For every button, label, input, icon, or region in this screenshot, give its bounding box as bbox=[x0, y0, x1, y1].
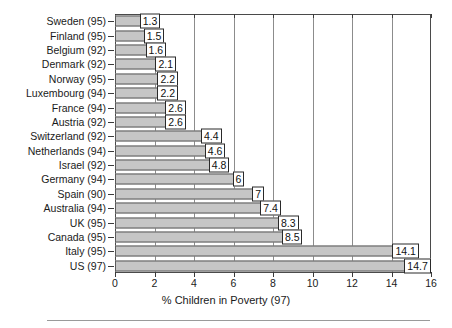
bar-row: 2.6 bbox=[115, 100, 431, 114]
bar bbox=[115, 116, 166, 127]
category-tick bbox=[108, 50, 114, 51]
bar bbox=[115, 73, 158, 84]
category-tick bbox=[108, 136, 114, 137]
bar-row: 8.3 bbox=[115, 215, 431, 229]
footer-divider-rule bbox=[47, 320, 430, 321]
bar-value-label: 14.7 bbox=[404, 258, 430, 273]
category-axis-labels: Sweden (95)Finland (95)Belgium (92)Denma… bbox=[0, 14, 106, 273]
category-tick bbox=[108, 165, 114, 166]
bar bbox=[115, 16, 141, 27]
tick-label-6: 6 bbox=[231, 277, 237, 289]
category-tick bbox=[108, 208, 114, 209]
category-tick bbox=[108, 64, 114, 65]
category-label: Canada (95) bbox=[0, 231, 106, 243]
bar bbox=[115, 232, 283, 243]
bar-series: 1.31.51.62.12.22.22.62.64.44.64.8677.48.… bbox=[115, 14, 431, 273]
category-tick bbox=[108, 179, 114, 180]
bar-row: 8.5 bbox=[115, 230, 431, 244]
bar-value-label: 1.6 bbox=[146, 42, 167, 57]
bar-row: 1.5 bbox=[115, 28, 431, 42]
category-label: US (97) bbox=[0, 260, 106, 272]
category-tick bbox=[108, 79, 114, 80]
category-tick bbox=[108, 223, 114, 224]
bar-row: 7 bbox=[115, 187, 431, 201]
bar-row: 2.1 bbox=[115, 57, 431, 71]
bar bbox=[115, 131, 202, 142]
category-label: Norway (95) bbox=[0, 73, 106, 85]
category-tick bbox=[108, 237, 114, 238]
bar bbox=[115, 246, 393, 257]
bar bbox=[115, 145, 206, 156]
bar-value-label: 2.6 bbox=[165, 114, 186, 129]
category-label: Switzerland (92) bbox=[0, 130, 106, 142]
bar-row: 4.8 bbox=[115, 158, 431, 172]
bar-value-label: 4.4 bbox=[201, 129, 222, 144]
category-label: Luxembourg (94) bbox=[0, 87, 106, 99]
tick-label-14: 14 bbox=[386, 277, 398, 289]
tick-label-12: 12 bbox=[346, 277, 358, 289]
bar-row: 14.1 bbox=[115, 244, 431, 258]
category-label: Italy (95) bbox=[0, 245, 106, 257]
bar-value-label: 1.3 bbox=[140, 14, 161, 29]
tick-mark-top-16 bbox=[431, 14, 432, 18]
bar-value-label: 8.3 bbox=[278, 215, 299, 230]
bar bbox=[115, 217, 279, 228]
bar-value-label: 1.5 bbox=[144, 28, 165, 43]
bar-row: 14.7 bbox=[115, 259, 431, 273]
bar-value-label: 7.4 bbox=[260, 201, 281, 216]
tick-label-10: 10 bbox=[307, 277, 319, 289]
category-label: Finland (95) bbox=[0, 30, 106, 42]
category-label: Netherlands (94) bbox=[0, 145, 106, 157]
bar bbox=[115, 102, 166, 113]
bar-value-label: 6 bbox=[233, 172, 245, 187]
bar-value-label: 2.2 bbox=[157, 71, 178, 86]
bar-row: 4.6 bbox=[115, 144, 431, 158]
bar-row: 1.3 bbox=[115, 14, 431, 28]
bar bbox=[115, 174, 234, 185]
bar bbox=[115, 44, 147, 55]
category-tick bbox=[108, 122, 114, 123]
category-label: Austria (92) bbox=[0, 116, 106, 128]
bar-value-label: 8.5 bbox=[282, 230, 303, 245]
category-label: France (94) bbox=[0, 102, 106, 114]
bar-row: 4.4 bbox=[115, 129, 431, 143]
tick-label-0: 0 bbox=[112, 277, 118, 289]
tick-label-16: 16 bbox=[425, 277, 437, 289]
bar-row: 2.2 bbox=[115, 72, 431, 86]
bar-row: 6 bbox=[115, 172, 431, 186]
tick-label-8: 8 bbox=[270, 277, 276, 289]
bar-value-label: 2.1 bbox=[155, 57, 176, 72]
category-label: Spain (90) bbox=[0, 188, 106, 200]
bar-value-label: 2.2 bbox=[157, 86, 178, 101]
category-label: Belgium (92) bbox=[0, 44, 106, 56]
bar bbox=[115, 88, 158, 99]
bar bbox=[115, 59, 156, 70]
bar-value-label: 7 bbox=[252, 186, 264, 201]
category-label: UK (95) bbox=[0, 217, 106, 229]
category-tick bbox=[108, 266, 114, 267]
bar bbox=[115, 188, 253, 199]
category-tick bbox=[108, 251, 114, 252]
category-tick bbox=[108, 194, 114, 195]
bar bbox=[115, 260, 405, 271]
bar bbox=[115, 30, 145, 41]
bar-row: 7.4 bbox=[115, 201, 431, 215]
category-label: Australia (94) bbox=[0, 202, 106, 214]
category-tick bbox=[108, 108, 114, 109]
category-label: Israel (92) bbox=[0, 159, 106, 171]
category-tick bbox=[108, 21, 114, 22]
bar-value-label: 14.1 bbox=[392, 244, 418, 259]
category-tick bbox=[108, 93, 114, 94]
bar bbox=[115, 160, 210, 171]
tick-label-2: 2 bbox=[152, 277, 158, 289]
category-tick bbox=[108, 36, 114, 37]
bar-row: 2.6 bbox=[115, 115, 431, 129]
category-label: Denmark (92) bbox=[0, 58, 106, 70]
category-label: Sweden (95) bbox=[0, 15, 106, 27]
bar bbox=[115, 203, 261, 214]
bar-row: 2.2 bbox=[115, 86, 431, 100]
poverty-bar-chart: Sweden (95)Finland (95)Belgium (92)Denma… bbox=[0, 0, 452, 328]
tick-label-4: 4 bbox=[191, 277, 197, 289]
bar-value-label: 2.6 bbox=[165, 100, 186, 115]
bar-row: 1.6 bbox=[115, 43, 431, 57]
